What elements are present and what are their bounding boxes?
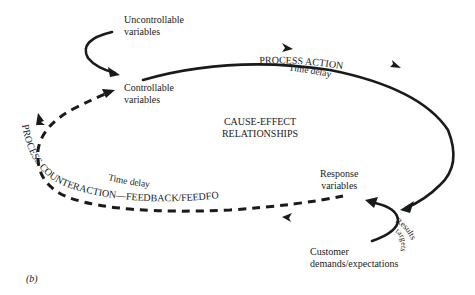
arrowhead-icon <box>400 201 414 213</box>
arrowhead-icon <box>108 67 120 77</box>
node-customer-demands: Customer demands/expectations <box>310 246 398 270</box>
node-label-line: variables <box>124 26 184 38</box>
node-label-line: variables <box>124 94 174 106</box>
node-uncontrollable-variables: Uncontrollable variables <box>124 14 184 38</box>
cause-effect-diagram: PROCESS ACTION Time delay PROCESS COUNTE… <box>0 0 475 295</box>
node-label-line: variables <box>320 180 358 192</box>
center-label-line: RELATIONSHIPS <box>200 128 320 140</box>
customer-to-response-arrow <box>365 197 398 241</box>
uncontrollable-to-controllable-arrow <box>86 32 120 77</box>
cause-effect-relationships-label: CAUSE-EFFECT RELATIONSHIPS <box>200 116 320 140</box>
flow-direction-icon <box>282 213 292 222</box>
flow-direction-icon <box>390 60 401 68</box>
node-response-variables: Response variables <box>320 168 358 192</box>
diagram-arrows: PROCESS ACTION Time delay PROCESS COUNTE… <box>0 0 475 295</box>
center-label-line: CAUSE-EFFECT <box>200 116 320 128</box>
node-label-line: Customer <box>310 246 398 258</box>
node-label-line: Response <box>320 168 358 180</box>
node-label-line: Uncontrollable <box>124 14 184 26</box>
flow-direction-icon <box>36 113 45 125</box>
process-counteraction-label: PROCESS COUNTERACTION—FEEDBACK/FEEDFORWA… <box>0 0 219 203</box>
flow-direction-icon <box>282 43 293 52</box>
process-counteraction-time-delay: Time delay <box>107 172 150 189</box>
node-controllable-variables: Controllable variables <box>124 82 174 106</box>
panel-label: (b) <box>26 273 38 284</box>
node-label-line: demands/expectations <box>310 258 398 270</box>
node-label-line: Controllable <box>124 82 174 94</box>
